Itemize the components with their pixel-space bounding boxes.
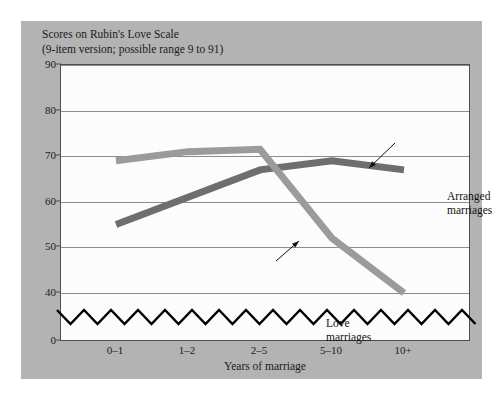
y-tick-label-40: 40 [26, 286, 56, 298]
x-axis-ticks: 0–11–22–55–1010+ [60, 344, 470, 360]
y-tick-label-0: 0 [26, 334, 56, 346]
annotation-arranged-line1: Arranged [447, 189, 492, 203]
y-tick-label-90: 90 [26, 58, 56, 70]
x-tick-label-0: 0–1 [107, 344, 124, 356]
y-axis-ticks: 0405060708090 [22, 64, 56, 341]
x-axis-label: Years of marriage [60, 360, 470, 372]
chart-title-line2: (9-item version; possible range 9 to 91) [42, 42, 442, 57]
chart-figure: Scores on Rubin's Love Scale (9-item ver… [0, 0, 503, 403]
chart-title: Scores on Rubin's Love Scale (9-item ver… [42, 27, 442, 56]
y-tick-label-50: 50 [26, 240, 56, 252]
annotation-love-line2: marriages [326, 330, 371, 344]
annotation-arranged-line2: marriages [447, 203, 492, 217]
axis-break-squiggle [57, 310, 476, 324]
x-tick-label-2: 2–5 [251, 344, 268, 356]
y-tick-label-60: 60 [26, 195, 56, 207]
x-tick-label-3: 5–10 [320, 344, 342, 356]
y-tick-label-80: 80 [26, 104, 56, 116]
y-tick-label-70: 70 [26, 149, 56, 161]
annotation-arranged-marriages: Arranged marriages [447, 189, 492, 217]
series-line-arranged-marriages [116, 161, 404, 225]
series-layer [61, 65, 471, 342]
x-tick-label-4: 10+ [394, 344, 411, 356]
x-tick-label-1: 1–2 [179, 344, 196, 356]
plot-area: Arranged marriages Love marriages [60, 64, 470, 341]
chart-title-line1: Scores on Rubin's Love Scale [42, 27, 442, 42]
annotation-love-marriages: Love marriages [326, 316, 371, 344]
annotation-love-line1: Love [326, 316, 371, 330]
